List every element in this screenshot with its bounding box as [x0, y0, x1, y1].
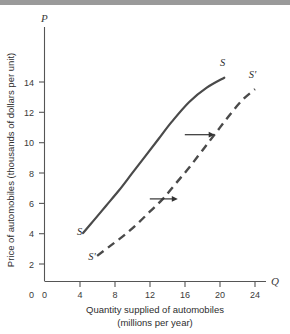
y-axis-title: Price of automobiles (thousands of dolla…: [5, 53, 16, 267]
y-axis-symbol: P: [40, 12, 48, 24]
x-axis-ticks: [80, 282, 255, 288]
x-tick-label-0: 0: [42, 290, 47, 300]
y-tick-label-0: 0: [29, 290, 34, 300]
supply-curve-s-prime: [97, 89, 255, 256]
s-prime-curve-lower-label: S': [88, 251, 96, 262]
s-curve-lower-label: S: [77, 226, 83, 237]
supply-curve-figure: P Q 14 12 10 8 6 4 2 0 0 4 8 12 16 20: [0, 0, 290, 334]
y-axis-ticks: [39, 82, 45, 264]
x-tick-label-24: 24: [250, 290, 260, 300]
x-axis-symbol: Q: [271, 275, 279, 287]
x-tick-label-8: 8: [112, 290, 117, 300]
y-tick-label-8: 8: [29, 169, 34, 179]
y-tick-label-6: 6: [29, 199, 34, 209]
chart-svg: P Q 14 12 10 8 6 4 2 0 0 4 8 12 16 20: [0, 0, 290, 334]
x-axis-title-line1: Quantity supplied of automobiles: [86, 304, 224, 315]
x-tick-label-16: 16: [180, 290, 190, 300]
y-tick-label-2: 2: [29, 260, 34, 270]
y-tick-label-10: 10: [24, 138, 34, 148]
shift-arrows: [150, 132, 215, 202]
s-curve-upper-label: S: [220, 57, 226, 68]
lower-shift-arrow-head: [172, 196, 178, 202]
y-axis-tick-labels: 14 12 10 8 6 4 2 0: [24, 78, 34, 301]
supply-curve-s: [83, 78, 224, 233]
x-axis-tick-labels: 0 4 8 12 16 20 24: [42, 290, 260, 300]
y-tick-label-4: 4: [29, 229, 34, 239]
x-tick-label-4: 4: [77, 290, 82, 300]
x-axis-title-line2: (millions per year): [117, 317, 193, 328]
y-tick-label-12: 12: [24, 108, 34, 118]
x-tick-label-20: 20: [215, 290, 225, 300]
x-tick-label-12: 12: [145, 290, 155, 300]
y-tick-label-14: 14: [24, 78, 34, 88]
s-prime-curve-upper-label: S': [249, 69, 257, 80]
